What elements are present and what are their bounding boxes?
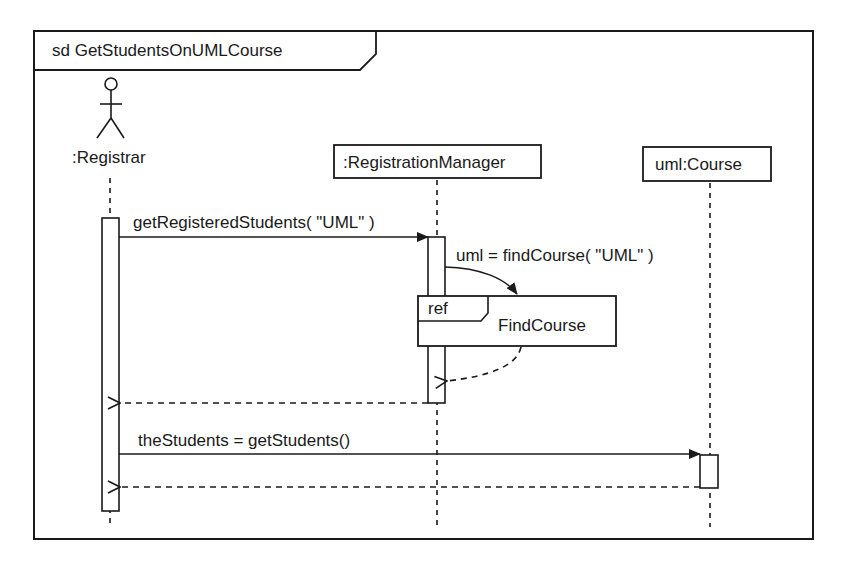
message-label-findCourse: uml = findCourse( "UML" ): [456, 247, 654, 264]
message-arrow-findCourse: [445, 267, 517, 294]
actor-icon: [97, 78, 124, 138]
ref-name-label: FindCourse: [498, 317, 586, 334]
lifeline-label-registrar: :Registrar: [72, 149, 146, 166]
lifeline-label-registration-manager: :RegistrationManager: [343, 154, 506, 171]
return-arrow-findCourse: [447, 347, 521, 381]
registrar-activation: [102, 218, 119, 511]
frame-title: sd GetStudentsOnUMLCourse: [52, 42, 283, 59]
message-label-getStudents: theStudents = getStudents(): [138, 432, 350, 449]
course-activation: [700, 455, 718, 488]
ref-operator-label: ref: [428, 300, 448, 317]
lifeline-label-course: uml:Course: [655, 156, 742, 173]
message-label-getRegisteredStudents: getRegisteredStudents( "UML" ): [133, 214, 375, 231]
sequence-diagram-canvas: [0, 0, 845, 562]
sd-frame: [34, 31, 813, 539]
